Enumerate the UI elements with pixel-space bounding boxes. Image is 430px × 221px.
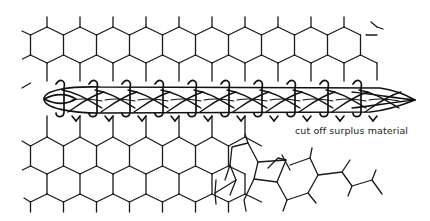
lower-mesh <box>22 116 262 212</box>
net-seam-illustration <box>0 0 430 221</box>
upper-mesh <box>22 17 383 88</box>
distorted-mesh <box>215 134 382 211</box>
annotation-label: cut off surplus material <box>295 125 408 136</box>
seam-rope <box>44 81 415 121</box>
diagram-canvas: cut off surplus material <box>0 0 430 221</box>
